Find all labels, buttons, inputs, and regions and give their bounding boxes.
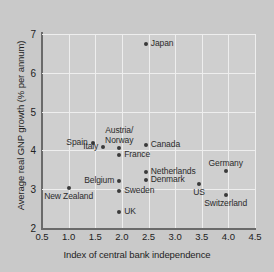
gridline-vertical [95, 34, 96, 228]
data-point [224, 193, 228, 197]
data-point [117, 146, 121, 150]
data-point-label: Sweden [124, 186, 154, 196]
x-tick-label: 0.5 [35, 231, 48, 242]
data-point [117, 210, 121, 214]
data-point-label: France [124, 150, 150, 160]
data-point-label: Belgium [84, 176, 114, 186]
data-point [117, 153, 121, 157]
y-tick-label: 4 [30, 145, 36, 156]
data-point [101, 145, 105, 149]
data-point [144, 170, 148, 174]
y-tick-label: 5 [30, 106, 36, 117]
x-tick-label: 2.0 [115, 231, 128, 242]
data-point-label: Canada [151, 140, 180, 150]
y-tick-label: 7 [30, 29, 36, 40]
data-point-label: New Zealand [44, 192, 93, 202]
gridline-vertical [202, 34, 203, 228]
data-point-label: US [193, 188, 205, 198]
data-point [197, 182, 201, 186]
y-axis-title: Average real GNP growth (% per annum) [15, 26, 26, 226]
data-point-label: Italy [83, 143, 98, 153]
data-point-label: Germany [209, 158, 243, 168]
gridline-horizontal [42, 73, 255, 74]
data-point [117, 189, 121, 193]
data-point-label: UK [124, 208, 136, 218]
x-tick-label: 1.0 [62, 231, 75, 242]
data-point [117, 179, 121, 183]
gridline-vertical [175, 34, 176, 228]
data-point-label: Switzerland [204, 199, 247, 209]
x-tick-label: 2.5 [142, 231, 155, 242]
scatter-chart-figure: JapanSpainCanadaItalyAustria/ NorwayFran… [0, 0, 274, 272]
gridline-vertical [149, 34, 150, 228]
data-point [144, 143, 148, 147]
x-tick-label: 3.5 [195, 231, 208, 242]
data-point-label: Austria/ Norway [105, 126, 133, 145]
gridline-vertical [255, 34, 256, 228]
data-point [224, 169, 228, 173]
y-tick-label: 3 [30, 184, 36, 195]
gridline-horizontal [42, 34, 255, 35]
data-point [144, 42, 148, 46]
x-axis-title: Index of central bank independence [0, 249, 274, 260]
data-point-label: Denmark [151, 175, 185, 185]
data-point [67, 186, 71, 190]
x-axis-line [41, 228, 256, 230]
data-point [144, 178, 148, 182]
x-tick-label: 1.5 [89, 231, 102, 242]
data-point-label: Japan [151, 39, 174, 49]
y-tick-label: 6 [30, 67, 36, 78]
y-axis-line [41, 32, 43, 230]
x-tick-label: 4.0 [222, 231, 235, 242]
y-tick-label: 2 [30, 223, 36, 234]
x-tick-label: 4.5 [248, 231, 261, 242]
gridline-horizontal [42, 112, 255, 113]
x-tick-label: 3.0 [169, 231, 182, 242]
